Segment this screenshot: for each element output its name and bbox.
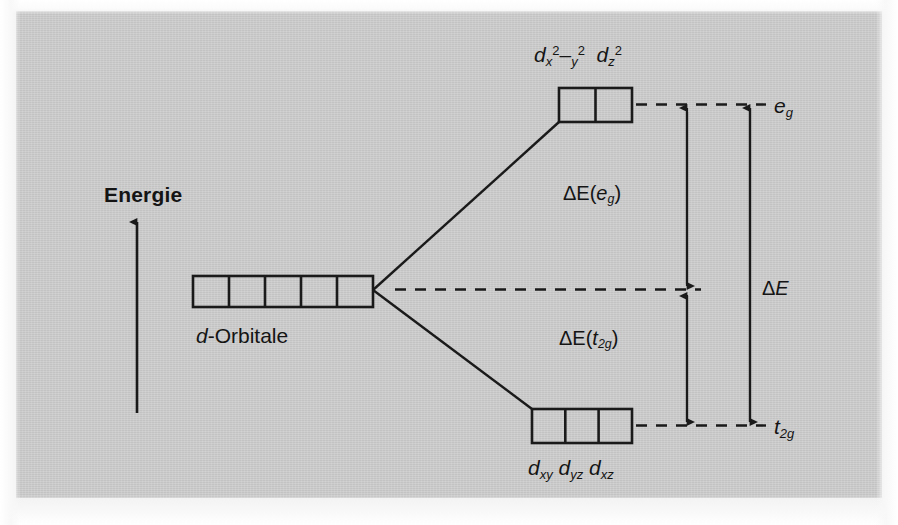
correlation-line-to-t2g [373,290,532,409]
t2g-orbital-name-2: dyz [559,456,584,479]
eg-term-letter: e [774,94,786,117]
delta-e-total-delta: Δ [762,277,775,299]
eg-orbital-names-label: dx2–y2 dz2 [534,44,622,65]
t2g-box-outline [532,409,632,443]
d-orbitale-label-rest: -Orbitale [208,324,289,347]
page-edge-left [0,0,20,525]
delta-e-total-e: E [775,277,788,299]
delta-e-eg-prefix: ΔE( [563,182,596,204]
delta-e-eg-letter: e [596,182,607,204]
figure-container: Energie d-Orbitale dx2–y2 dz2 dxy dyz dx… [0,0,898,525]
energy-axis-label: Energie [104,184,182,205]
dashed-guides [395,105,766,426]
delta-e-eg-label: ΔE(eg) [563,183,621,203]
d-orbitale-label: d-Orbitale [196,325,288,346]
delta-e-t2g-sub: 2g [598,337,612,351]
eg-term-symbol: eg [774,95,793,116]
delta-e-total-label: ΔE [762,278,789,298]
delta-e-t2g-suffix: ) [612,327,619,349]
t2g-orbital-name-1: dxy [528,456,553,479]
eg-orbital-name-2: dz2 [597,43,622,66]
d-orbitale-label-italic: d [196,324,208,347]
t2g-orbital-names-label: dxy dyz dxz [528,457,614,478]
page-edge-top [0,0,898,14]
correlation-line-to-eg [373,122,559,290]
t2g-orbital-name-3: dxz [589,456,614,479]
splitting-diagram-graphic [0,0,898,525]
eg-term-sub: g [786,105,793,120]
correlation-lines [373,122,559,409]
eg-orbital-box-group [559,88,632,122]
page-edge-right [876,0,898,525]
t2g-term-symbol: t2g [774,416,794,437]
delta-e-t2g-label: ΔE(t2g) [559,328,618,348]
delta-e-eg-suffix: ) [614,182,621,204]
d-orbital-box-group [193,276,373,307]
eg-orbital-name-1: dx2–y2 [534,43,585,66]
d-orbital-box-outline [193,276,373,307]
page-edge-bottom [0,495,898,525]
delta-e-t2g-prefix: ΔE( [559,327,592,349]
t2g-term-sub: 2g [780,426,794,441]
t2g-orbital-box-group [532,409,632,443]
